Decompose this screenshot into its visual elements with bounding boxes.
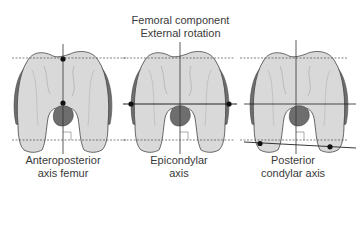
lateral-epicondyle-point bbox=[226, 101, 231, 106]
caption-posterior-condylar: Posterior condylar axis bbox=[238, 154, 348, 180]
caption-anteroposterior: Anteroposterior axis femur bbox=[8, 154, 118, 180]
medial-epicondyle-point bbox=[128, 101, 133, 106]
anterior-point bbox=[60, 56, 65, 61]
caption-line-1: Posterior bbox=[238, 154, 348, 167]
lateral-posterior-condyle-point bbox=[327, 144, 332, 149]
femur-panel-epicondylar bbox=[123, 42, 237, 154]
caption-epicondylar: Epicondylar axis bbox=[124, 154, 234, 180]
caption-line-2: condylar axis bbox=[238, 167, 348, 180]
femur-panel-anteroposterior bbox=[12, 44, 126, 154]
caption-line-1: Anteroposterior bbox=[8, 154, 118, 167]
caption-line-1: Epicondylar bbox=[124, 154, 234, 167]
medial-posterior-condyle-point bbox=[257, 141, 262, 146]
caption-line-2: axis femur bbox=[8, 167, 118, 180]
caption-line-2: axis bbox=[124, 167, 234, 180]
notch-point bbox=[60, 100, 65, 105]
femur-panel-posterior-condylar bbox=[240, 40, 356, 154]
